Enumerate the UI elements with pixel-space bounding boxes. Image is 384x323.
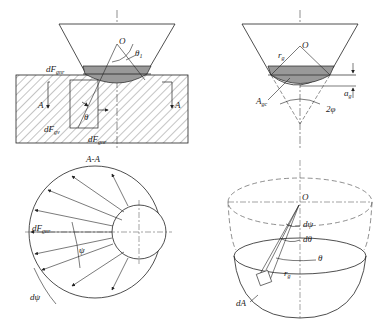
label-O: O xyxy=(302,40,309,50)
label-Agc: Agc xyxy=(255,96,268,107)
label-dpsi: dψ xyxy=(30,292,41,302)
label-dpsi: dψ xyxy=(303,219,314,229)
label-O: O xyxy=(302,192,309,202)
label-A-right: A xyxy=(174,100,181,110)
panel-top-left: O θ1 dFgnr A A θ dFgv dFgnr xyxy=(16,10,188,150)
label-A-left: A xyxy=(37,100,44,110)
label-ag: ag xyxy=(344,88,352,99)
label-dFgnr: dFgnr xyxy=(32,223,51,234)
panel-bottom-right: O dψ dθ θ rg dA xyxy=(228,160,372,318)
label-dFgnr-top: dFgnr xyxy=(46,64,65,75)
label-theta: θ xyxy=(84,112,89,122)
label-2phi: 2φ xyxy=(326,104,336,114)
label-psi: ψ xyxy=(79,245,85,255)
label-O: O xyxy=(119,36,126,46)
label-dtheta: dθ xyxy=(303,234,313,244)
panel-top-right: O rg Agc ag 2φ xyxy=(242,10,358,150)
label-dA: dA xyxy=(236,298,247,308)
diagram-canvas: O θ1 dFgnr A A θ dFgv dFgnr O rg Agc ag … xyxy=(0,0,384,323)
label-theta: θ xyxy=(318,253,323,263)
section-title: A-A xyxy=(85,154,100,164)
panel-bottom-left: A-A dFgnr ψ dψ xyxy=(25,154,172,304)
label-rg: rg xyxy=(284,268,291,279)
